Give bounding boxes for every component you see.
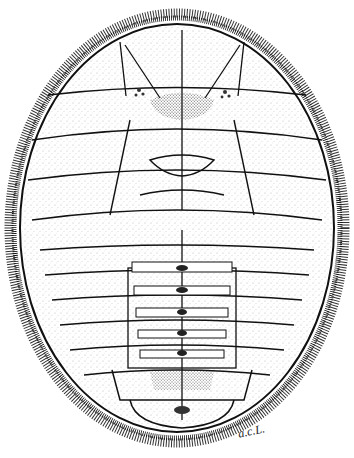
insect-illustration	[0, 0, 354, 458]
